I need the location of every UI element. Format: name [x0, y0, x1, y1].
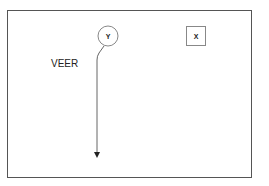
node-y-label: Y: [106, 33, 111, 40]
arrowhead-icon: [94, 152, 100, 158]
veer-path: [97, 46, 104, 152]
diagram-canvas: [0, 0, 269, 186]
veer-label: VEER: [51, 58, 78, 69]
node-x-label: X: [194, 33, 199, 40]
